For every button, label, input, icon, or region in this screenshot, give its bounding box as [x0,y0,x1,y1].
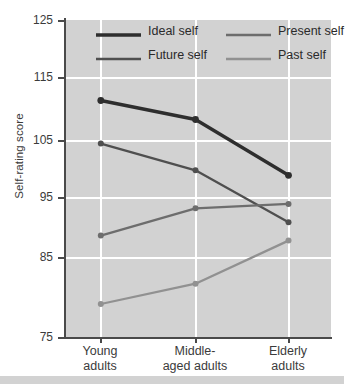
legend-label-future-self: Future self [148,48,207,62]
chart-legend: Ideal self Present self Future self Past… [96,24,332,68]
data-point [286,219,292,225]
data-point [98,141,104,147]
series-line-past-self [101,241,289,304]
legend-swatch-future-self [96,56,141,62]
legend-label-ideal-self: Ideal self [148,24,198,38]
data-point [193,281,199,287]
footer-bar [0,376,344,384]
legend-swatch-present-self [226,32,271,38]
data-point [97,97,104,104]
legend-label-present-self: Present self [278,24,344,38]
data-point [193,167,199,173]
data-point [192,116,199,123]
legend-swatch-past-self [226,56,271,62]
series-line-ideal-self [101,101,289,176]
data-point [98,301,104,307]
data-point [286,201,292,207]
data-point [98,233,104,239]
data-point [193,205,199,211]
legend-label-past-self: Past self [278,48,326,62]
data-point [285,172,292,179]
legend-swatch-ideal-self [96,32,141,38]
data-point [286,238,292,244]
